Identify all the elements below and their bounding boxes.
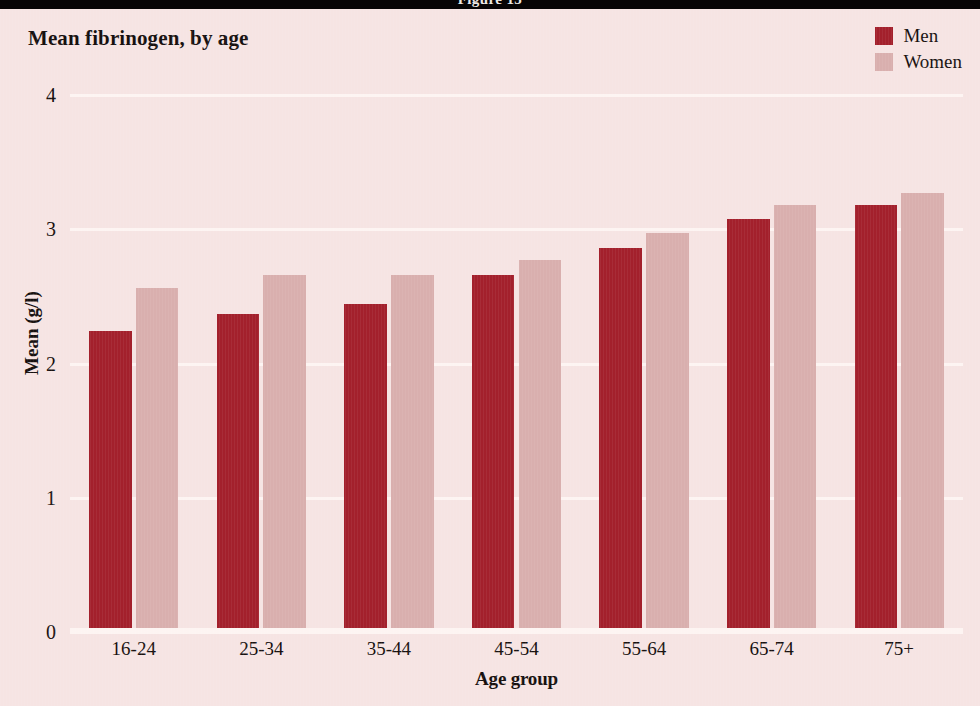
x-tick-label: 65-74 (749, 638, 793, 660)
bar-women-16-24 (136, 288, 179, 632)
legend-swatch-icon-men (875, 27, 893, 45)
bar-men-55-64 (599, 248, 642, 632)
bar-group (855, 95, 944, 632)
figure-caption-banner: Figure 15 (0, 0, 980, 9)
legend-label-men: Men (903, 26, 938, 45)
legend-label-women: Women (903, 52, 962, 71)
y-tick-label: 2 (46, 352, 56, 375)
y-tick-label: 4 (46, 84, 56, 107)
bar-men-25-34 (217, 314, 260, 632)
x-tick-label: 45-54 (494, 638, 538, 660)
x-tick-label: 35-44 (367, 638, 411, 660)
bar-men-75+ (855, 205, 898, 632)
x-axis-ticks: 16-2425-3435-4445-5455-6465-7475+ (70, 638, 963, 668)
bar-group (344, 95, 433, 632)
x-axis-title: Age group (70, 668, 963, 690)
bars-layer (70, 95, 963, 632)
bar-group (472, 95, 561, 632)
bar-men-16-24 (89, 331, 132, 632)
bar-women-75+ (901, 193, 944, 632)
y-axis-title: Mean (g/l) (21, 263, 43, 403)
y-tick-label: 0 (46, 621, 56, 644)
plot-area: 01234 (70, 95, 963, 632)
bar-group (727, 95, 816, 632)
bar-group (599, 95, 688, 632)
x-tick-label: 25-34 (239, 638, 283, 660)
y-tick-label: 3 (46, 218, 56, 241)
x-tick-label: 75+ (884, 638, 914, 660)
legend-item-women: Women (875, 52, 962, 71)
bar-women-45-54 (519, 260, 562, 632)
legend-item-men: Men (875, 26, 962, 45)
bar-men-35-44 (344, 304, 387, 632)
bar-men-45-54 (472, 275, 515, 632)
bar-women-25-34 (263, 275, 306, 632)
x-axis-line (70, 628, 963, 632)
figure-page: Figure 15 Mean fibrinogen, by age Men Wo… (0, 0, 980, 706)
bar-women-65-74 (774, 205, 817, 632)
x-tick-label: 55-64 (622, 638, 666, 660)
bar-group (217, 95, 306, 632)
bar-group (89, 95, 178, 632)
legend-swatch-icon-women (875, 53, 893, 71)
x-tick-label: 16-24 (112, 638, 156, 660)
bar-women-55-64 (646, 233, 689, 632)
figure-caption-text: Figure 15 (0, 0, 980, 8)
chart-legend: Men Women (875, 26, 962, 71)
bar-women-35-44 (391, 275, 434, 632)
bar-men-65-74 (727, 219, 770, 632)
y-tick-label: 1 (46, 486, 56, 509)
chart-title: Mean fibrinogen, by age (28, 26, 248, 51)
